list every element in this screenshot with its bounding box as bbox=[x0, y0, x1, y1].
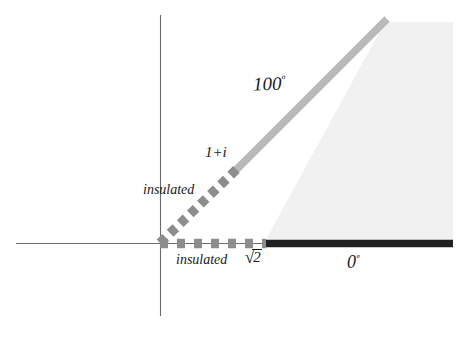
degree-symbol-icon: º bbox=[281, 73, 285, 86]
sqrt-radicand: 2 bbox=[252, 249, 262, 265]
insulated-horizontal-label: insulated bbox=[176, 253, 227, 267]
cold-boundary-label-value: 0 bbox=[347, 252, 356, 272]
insulated-diagonal-dashed bbox=[160, 168, 238, 243]
insulated-diagonal-label: insulated bbox=[143, 183, 194, 197]
point-sqrt-2-label: √2 bbox=[245, 249, 262, 266]
cold-boundary-label: 0º bbox=[347, 253, 359, 271]
shaded-wedge-region bbox=[264, 22, 453, 243]
diagram-canvas bbox=[0, 0, 472, 338]
sqrt-expression: √2 bbox=[245, 249, 262, 266]
complex-plane-diagram: 100º 0º 1+i insulated insulated √2 bbox=[0, 0, 472, 338]
point-1-plus-i-label: 1+i bbox=[205, 145, 227, 160]
hot-boundary-label: 100º bbox=[253, 73, 286, 93]
hot-boundary-label-value: 100 bbox=[253, 73, 282, 95]
degree-symbol-icon: º bbox=[356, 252, 359, 264]
